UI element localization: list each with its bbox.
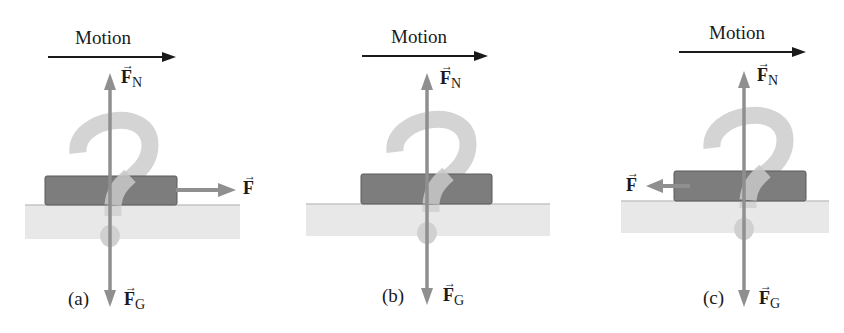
normal-force-label: →FN [121,67,142,91]
applied-force-arrowhead-icon [218,183,236,197]
panel-a: Motion →FN →F →FG (a) [0,0,280,333]
ground-surface [25,205,240,239]
normal-force-label: →FN [440,68,461,92]
normal-force-arrowhead-icon [104,73,116,90]
applied-force-arrowhead-icon [646,179,663,193]
gravity-force-label: →FG [124,289,145,313]
panel-b: Motion →FN →FG (b) [280,0,564,333]
applied-force-label: →F [626,175,637,196]
motion-arrowhead-icon [474,51,488,61]
motion-label: Motion [391,26,447,48]
normal-force-arrowhead-icon [738,71,750,88]
motion-arrowhead-icon [162,52,176,62]
panel-c: Motion →FN →F →FG (c) [564,0,844,333]
motion-label: Motion [709,22,765,44]
gravity-force-arrowhead-icon [421,288,433,305]
panel-b-graphics [280,0,564,333]
motion-arrowhead-icon [792,47,806,57]
applied-force-label: →F [243,178,254,199]
motion-label: Motion [75,27,131,49]
normal-force-label: →FN [757,65,778,89]
ground-surface [621,201,829,233]
panel-c-graphics [564,0,844,333]
normal-force-arrowhead-icon [421,73,433,90]
gravity-force-arrowhead-icon [104,290,116,307]
gravity-force-label: →FG [443,285,464,309]
gravity-force-label: →FG [759,288,780,312]
panel-a-graphics [0,0,280,333]
panel-caption: (a) [68,288,89,310]
panel-caption: (c) [703,287,724,309]
gravity-force-arrowhead-icon [738,290,750,307]
panel-caption: (b) [382,285,404,307]
